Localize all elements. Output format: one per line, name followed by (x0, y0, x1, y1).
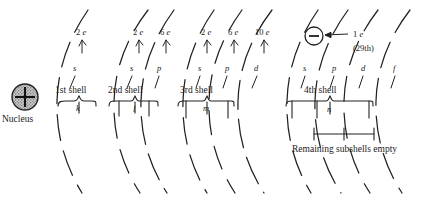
shell-letter-1: k (76, 104, 80, 113)
atom-shell-diagram: Nucleus 1 e (29th) 2 e 2 e 6 e 2 e 6 e 1… (0, 0, 439, 202)
shell-letter-3: m (203, 104, 209, 113)
shell-letter-4: n (327, 105, 331, 114)
shell-name-3: 3rd shell (180, 86, 213, 96)
shell-arc-3-d (238, 10, 272, 193)
electron-count-2-s: 2 e (133, 28, 143, 37)
subshell-label-4-p: p (332, 64, 336, 73)
remaining-subshells-bracket (314, 128, 374, 140)
shell-arc-4-f (376, 10, 410, 193)
electron-count-pointer-group (79, 40, 268, 53)
electron-count-3-p: 6 e (228, 28, 238, 37)
electron-ordinal-label: (29th) (353, 44, 374, 53)
subshell-label-3-d: d (254, 64, 258, 73)
subshell-label-4-d: d (361, 64, 365, 73)
nucleus-label: Nucleus (2, 115, 33, 125)
electron-count-label: 1 e (353, 30, 363, 39)
electron-count-3-s: 2 e (201, 28, 211, 37)
subshell-label-1-s: s (73, 64, 76, 73)
shell-name-2: 2nd shell (108, 86, 143, 96)
subshell-label-4-f: f (393, 64, 395, 73)
electron-symbol (305, 27, 323, 45)
electron-count-3-d: 10 e (255, 28, 269, 37)
electron-count-2-p: 6 e (160, 28, 170, 37)
subshell-label-3-s: s (198, 64, 201, 73)
diagram-canvas (0, 0, 439, 202)
subshell-label-4-s: s (303, 64, 306, 73)
remaining-subshells-label: Remaining subshells empty (292, 145, 397, 155)
shell-letter-2: l (133, 105, 135, 114)
nucleus-symbol (12, 84, 38, 110)
shell-name-1: 1st shell (55, 86, 86, 96)
subshell-label-2-s: s (130, 64, 133, 73)
electron-count-1-s: 2 e (76, 28, 86, 37)
subshell-label-2-p: p (157, 64, 161, 73)
shell-name-4: 4th shell (304, 86, 336, 96)
electron-leader-line (325, 32, 348, 37)
subshell-label-3-p: p (225, 64, 229, 73)
